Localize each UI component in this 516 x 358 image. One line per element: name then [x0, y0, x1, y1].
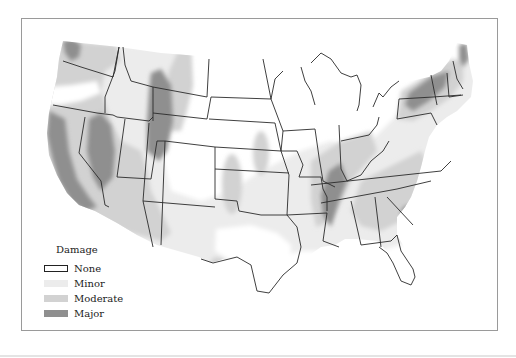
legend-item-minor: Minor — [44, 276, 154, 291]
legend-label: Major — [74, 308, 104, 319]
legend-item-moderate: Moderate — [44, 291, 154, 306]
page-divider — [0, 355, 516, 357]
legend-swatch-minor — [44, 280, 68, 287]
legend-label: Moderate — [74, 293, 123, 304]
legend-label: Minor — [74, 278, 105, 289]
legend-item-none: None — [44, 261, 154, 276]
legend-swatch-major — [44, 310, 68, 317]
legend-title: Damage — [56, 244, 154, 255]
legend-swatch-none — [44, 265, 68, 272]
map-legend: Damage None Minor Moderate Major — [44, 244, 154, 321]
map-frame: Damage None Minor Moderate Major — [21, 18, 498, 331]
legend-label: None — [74, 263, 101, 274]
legend-item-major: Major — [44, 306, 154, 321]
legend-swatch-moderate — [44, 295, 68, 302]
